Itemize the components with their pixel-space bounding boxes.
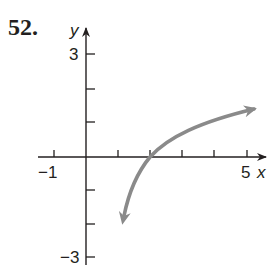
y-ticks — [86, 54, 95, 257]
graph: y 3 −1 5 x −3 — [0, 0, 278, 271]
log-curve — [124, 109, 254, 216]
x-max-label: 5 — [241, 163, 250, 182]
y-max-label: 3 — [69, 45, 78, 64]
y-min-label: −3 — [60, 248, 79, 267]
y-axis-label: y — [69, 21, 80, 40]
x-min-label: −1 — [38, 163, 57, 182]
x-axis-label: x — [256, 163, 266, 182]
